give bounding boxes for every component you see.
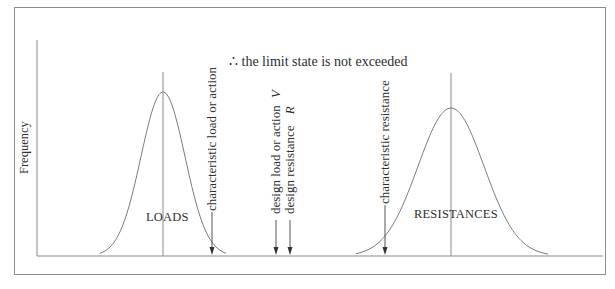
design-resistance-symbol: R — [282, 106, 297, 114]
design-load-text: design load or action — [268, 105, 283, 214]
characteristic-resistance-label: characteristic resistance — [377, 80, 393, 204]
characteristic-load-arrow — [210, 212, 215, 255]
design-load-arrow — [274, 220, 279, 255]
characteristic-resistance-arrow — [383, 205, 388, 255]
design-resistance-label: design resistance R — [282, 106, 298, 214]
resistances-label: RESISTANCES — [414, 207, 498, 222]
design-load-symbol: V — [268, 90, 283, 98]
figure-title: ∴ the limit state is not exceeded — [229, 53, 408, 70]
characteristic-load-label: characteristic load or action — [204, 67, 220, 211]
design-resistance-text: design resistance — [282, 126, 297, 214]
design-resistance-arrow — [288, 220, 293, 255]
y-axis-label: Frequency — [17, 121, 32, 174]
distribution-diagram — [0, 0, 615, 289]
loads-label: LOADS — [146, 210, 189, 225]
